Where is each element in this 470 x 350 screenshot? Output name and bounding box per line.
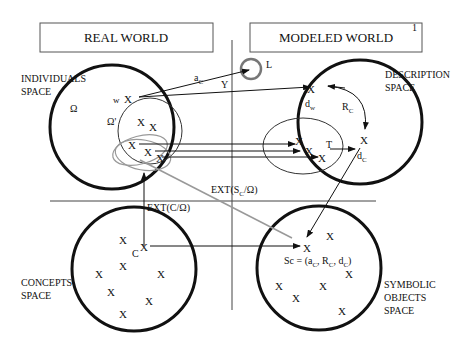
x-mark: X [95,268,103,280]
x-mark: X [119,234,127,246]
modeled-world-title: MODELED WORLD [279,30,393,45]
omega-prime-label: Ω' [107,116,116,127]
omega-label: Ω [70,103,77,114]
x-mark: X [318,152,326,164]
concepts-space-label: CONCEPTS SPACE [21,277,75,301]
ext-sc-grey-line [140,160,292,238]
x-mark: X [124,93,132,105]
concepts-space-circle [72,207,196,331]
x-mark: X [107,286,115,298]
x-mark: X [137,116,145,128]
ext-c-label: EXT(C/Ω) [147,202,190,214]
extension-ellipse-2 [113,135,173,174]
c-label: C [132,248,139,259]
ext-sc-label: EXT(SC/Ω) [211,184,258,198]
footnote-marker: 1 [412,22,417,33]
x-mark: X [305,145,313,157]
real-world-title: REAL WORLD [84,30,168,45]
l-circle [241,59,261,79]
x-mark: X [307,83,315,95]
sc-formula: Sc = (aC, RC, dC) [284,255,351,269]
description-space-label: DESCRIPTION SPACE [385,69,453,93]
x-mark: X [338,305,346,317]
x-mark: X [360,134,368,146]
l-label: L [266,59,272,70]
ac-label: aC [194,72,203,86]
modeled-world-box: MODELED WORLD 1 [250,22,422,52]
x-mark: X [145,295,153,307]
x-mark: X [149,121,157,133]
dc-arrow [307,148,360,237]
x-mark: X [119,308,127,320]
x-mark: X [157,268,165,280]
t-label: T [326,139,332,150]
x-mark: X [144,146,152,158]
y-label: Y [221,79,228,90]
real-world-box: REAL WORLD [40,23,213,52]
x-mark: X [140,241,148,253]
dc-label: dC [357,150,367,164]
dw-label: dw [305,98,316,112]
x-mark: X [156,152,164,164]
individuals-space-label: INDIVIDUALS SPACE [21,73,89,97]
x-mark: X [275,280,283,292]
x-mark: X [292,292,300,304]
x-mark: X [128,139,136,151]
x-mark: X [319,280,327,292]
x-mark: X [303,242,311,254]
knowledge-model-diagram: REAL WORLD MODELED WORLD 1 INDIVIDUALS S… [0,0,470,350]
x-mark: X [295,135,303,147]
symbolic-objects-space-label: SYMBOLIC OBJECTS SPACE [384,279,438,316]
w-label: w [113,95,120,105]
x-mark: X [326,230,334,242]
x-mark: X [345,268,353,280]
rc-label: RC [342,101,354,115]
x-mark: X [119,260,127,272]
symbolic-objects-space-circle [257,206,381,330]
